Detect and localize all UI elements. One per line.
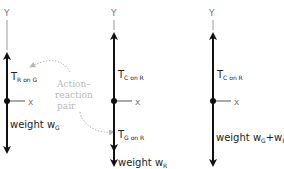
- y-axis-label: Y: [110, 8, 117, 18]
- tension-label: TR on G: [10, 71, 38, 83]
- weight-label: weight wG+wR: [216, 132, 284, 144]
- annotation-line1: Action–: [56, 79, 91, 89]
- y-axis-label: Y: [3, 8, 10, 18]
- weight-label: weight wR: [118, 157, 167, 169]
- free-body-diagrams: Y x TR on G weight wG Action– reaction p…: [0, 0, 284, 169]
- diagram-gymnast: Y x TR on G weight wG: [3, 8, 60, 150]
- diagram-combined: Y x TC on R weight wG+wR: [208, 8, 284, 163]
- annotation-line2: reaction: [55, 90, 93, 100]
- body-point: [4, 98, 10, 104]
- x-axis-label: x: [135, 97, 141, 107]
- curved-arrow-down: [80, 112, 112, 132]
- body-point: [210, 98, 216, 104]
- tension-c-on-r-label: TC on R: [117, 69, 144, 81]
- diagram-rope: Y x TC on R TG on R weight wR: [110, 8, 167, 169]
- annotation-line3: pair: [57, 101, 76, 111]
- x-axis-label: x: [28, 97, 34, 107]
- y-axis-label: Y: [208, 8, 215, 18]
- body-point: [111, 98, 117, 104]
- tension-g-on-r-label: TG on R: [117, 129, 144, 141]
- x-axis-label: x: [234, 97, 240, 107]
- tension-label: TC on R: [216, 69, 243, 81]
- weight-label: weight wG: [10, 119, 60, 131]
- curved-arrow-up: [32, 61, 70, 72]
